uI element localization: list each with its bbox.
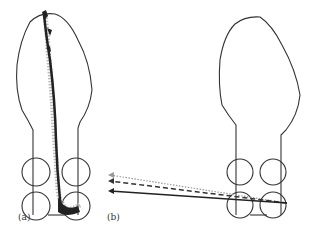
figure-canvas	[0, 0, 315, 235]
panel-b-arrows	[108, 172, 287, 203]
arrow-dotted	[110, 175, 287, 203]
arrow-solid	[110, 191, 287, 203]
arrow-dashed	[110, 181, 287, 203]
panel-a-trajectory-traces	[42, 10, 80, 215]
panel-b-label: (b)	[107, 212, 120, 222]
panel-a-label: (a)	[18, 212, 30, 222]
panel-b-foot-outline	[219, 17, 300, 218]
